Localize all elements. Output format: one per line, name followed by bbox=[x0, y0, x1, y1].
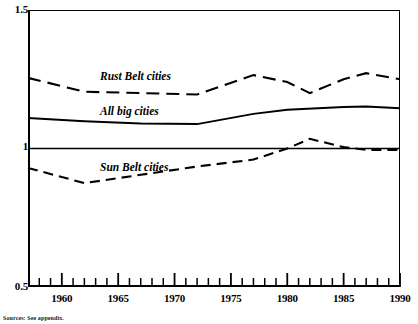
chart-canvas bbox=[28, 10, 400, 287]
series-line-rust-belt-cities bbox=[28, 73, 400, 94]
x-axis-tick-label: 1960 bbox=[40, 293, 84, 304]
x-axis-tick-label: 1975 bbox=[209, 293, 253, 304]
x-axis-tick-label: 1990 bbox=[378, 293, 418, 304]
x-axis-tick-label: 1965 bbox=[96, 293, 140, 304]
series-label-rust-belt-cities: Rust Belt cities bbox=[100, 71, 171, 83]
y-axis-labels: 1.5 1 0.5 bbox=[0, 0, 28, 324]
x-axis-tick-label: 1985 bbox=[322, 293, 366, 304]
source-note: Sources: See appendix. bbox=[3, 315, 64, 321]
x-axis-tick-label: 1970 bbox=[153, 293, 197, 304]
figure-container: 1.5 1 0.5 Rust Belt cities All big citie… bbox=[0, 0, 418, 324]
series-line-all-big-cities bbox=[28, 106, 400, 124]
y-axis-tick-label: 1 bbox=[2, 141, 28, 152]
y-axis-tick-label: 1.5 bbox=[2, 4, 28, 15]
series-label-sun-belt-cities: Sun Belt cities bbox=[100, 162, 168, 174]
x-axis-tick-marks bbox=[39, 273, 400, 287]
x-axis-tick-label: 1980 bbox=[265, 293, 309, 304]
series-label-all-big-cities: All big cities bbox=[100, 106, 159, 118]
series-line-sun-belt-cities bbox=[28, 139, 400, 183]
y-axis-tick-label: 0.5 bbox=[2, 281, 28, 292]
